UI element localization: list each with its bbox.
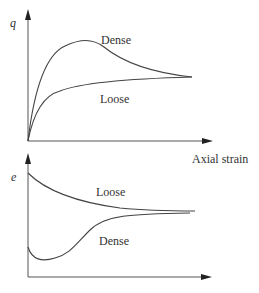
bottom-strain-axis-arrow-icon [201, 274, 212, 280]
q-loose-label: Loose [100, 92, 129, 106]
q-axis-label: q [10, 16, 16, 30]
strain-axis-arrow-icon [202, 138, 213, 144]
q-dense-curve [28, 41, 192, 142]
top-plot: q Dense Loose [10, 9, 213, 144]
bottom-plot: e Loose Dense [11, 153, 212, 280]
axial-strain-label: Axial strain [192, 152, 248, 166]
e-dense-label: Dense [99, 234, 129, 248]
e-axis-label: e [11, 170, 17, 184]
stress-strain-void-ratio-diagram: q Dense Loose e Loose Dense Axial strain [0, 0, 259, 293]
q-loose-curve [28, 77, 192, 141]
e-loose-label: Loose [96, 185, 125, 199]
q-axis-arrow-icon [25, 9, 31, 20]
e-axis-arrow-icon [25, 153, 31, 164]
q-dense-label: Dense [101, 33, 131, 47]
